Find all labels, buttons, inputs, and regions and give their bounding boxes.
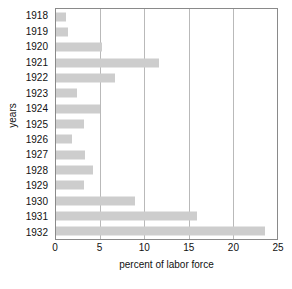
y-tick-label-1929: 1929: [10, 178, 51, 193]
bar-1932: [56, 227, 265, 236]
bar-row: [56, 116, 277, 131]
bar-1927: [56, 150, 85, 159]
x-tick-label-25: 25: [272, 242, 283, 253]
x-tick-label-10: 10: [139, 242, 150, 253]
bar-1929: [56, 181, 84, 190]
y-tick-label-1931: 1931: [10, 209, 51, 224]
bar-row: [56, 101, 277, 116]
y-tick-label-1922: 1922: [10, 70, 51, 85]
x-tick-label-5: 5: [97, 242, 103, 253]
bar-row: [56, 193, 277, 208]
y-tick-label-1919: 1919: [10, 23, 51, 38]
bar-1918: [56, 12, 66, 21]
bar-1926: [56, 135, 72, 144]
y-tick-label-1921: 1921: [10, 54, 51, 69]
y-tick-label-1928: 1928: [10, 163, 51, 178]
bar-row: [56, 162, 277, 177]
bar-row: [56, 86, 277, 101]
bar-row: [56, 208, 277, 223]
bar-row: [56, 24, 277, 39]
bar-row: [56, 9, 277, 24]
bar-1921: [56, 58, 159, 67]
y-tick-label-1926: 1926: [10, 132, 51, 147]
y-tick-label-1925: 1925: [10, 116, 51, 131]
bar-1931: [56, 211, 197, 220]
bar-1925: [56, 119, 84, 128]
x-tick-label-15: 15: [183, 242, 194, 253]
bar-rows: [56, 9, 277, 239]
y-tick-label-1924: 1924: [10, 101, 51, 116]
plot-area: [55, 8, 278, 240]
y-axis-tick-labels: 1918191919201921192219231924192519261927…: [10, 8, 51, 240]
bar-1928: [56, 165, 93, 174]
y-tick-label-1923: 1923: [10, 85, 51, 100]
y-tick-label-1918: 1918: [10, 8, 51, 23]
bar-row: [56, 132, 277, 147]
bar-row: [56, 224, 277, 239]
bar-1923: [56, 89, 77, 98]
bar-row: [56, 147, 277, 162]
bar-1922: [56, 73, 115, 82]
bar-chart: years 1918191919201921192219231924192519…: [0, 0, 292, 289]
bar-row: [56, 178, 277, 193]
bar-1930: [56, 196, 135, 205]
x-axis-title: percent of labor force: [55, 259, 278, 270]
y-tick-label-1932: 1932: [10, 225, 51, 240]
bar-1924: [56, 104, 100, 113]
bar-row: [56, 40, 277, 55]
bar-row: [56, 70, 277, 85]
x-axis-tick-labels: 0510152025: [55, 242, 278, 256]
y-tick-label-1920: 1920: [10, 39, 51, 54]
y-tick-label-1930: 1930: [10, 194, 51, 209]
bar-row: [56, 55, 277, 70]
bar-1919: [56, 27, 68, 36]
x-tick-label-0: 0: [52, 242, 58, 253]
bar-1920: [56, 43, 102, 52]
y-tick-label-1927: 1927: [10, 147, 51, 162]
x-tick-label-20: 20: [228, 242, 239, 253]
